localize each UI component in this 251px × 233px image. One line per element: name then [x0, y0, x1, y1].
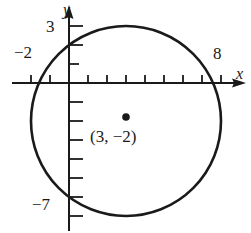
- x-axis-label: x: [236, 66, 243, 82]
- x-axis-ticks: [31, 75, 221, 83]
- graphed-circle: [31, 26, 221, 216]
- y-axis-label: y: [63, 2, 70, 18]
- y-axis-ticks: [69, 26, 83, 216]
- y-tick-label-3: 3: [46, 18, 55, 35]
- x-tick-label-8: 8: [213, 45, 222, 62]
- y-tick-label-neg7: −7: [32, 196, 50, 213]
- center-point-dot: [122, 113, 130, 121]
- circle-graph-figure: y x 3 −7 −2 8 (3, −2): [0, 0, 251, 233]
- center-point-label: (3, −2): [90, 128, 136, 145]
- x-tick-label-neg2: −2: [14, 44, 32, 61]
